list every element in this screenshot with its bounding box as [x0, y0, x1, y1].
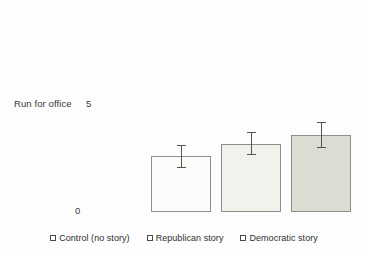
bar-chart-figure: Run for office 5 0 Control (no story)Rep…	[0, 0, 368, 255]
chart-legend: Control (no story)Republican storyDemocr…	[0, 233, 368, 243]
legend-item-label: Democratic story	[249, 233, 317, 243]
error-bar-1	[177, 145, 186, 169]
legend-item-2: Republican story	[147, 233, 224, 243]
error-bar-2	[247, 132, 256, 156]
legend-item-label: Control (no story)	[59, 233, 129, 243]
legend-item-1: Control (no story)	[50, 233, 129, 243]
legend-swatch-icon	[50, 235, 56, 241]
plot-area	[0, 0, 368, 225]
legend-swatch-icon	[147, 235, 153, 241]
legend-item-3: Democratic story	[240, 233, 317, 243]
legend-item-label: Republican story	[156, 233, 224, 243]
error-bar-3	[317, 122, 326, 148]
legend-swatch-icon	[240, 235, 246, 241]
